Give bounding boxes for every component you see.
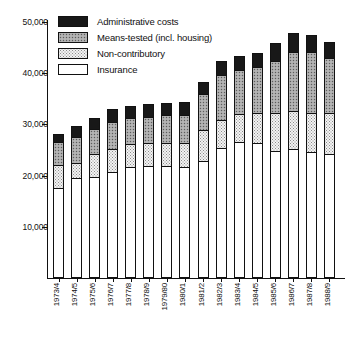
- bar-segment-means-tested-incl-housing: [324, 58, 335, 114]
- bar-segment-administrative-costs: [324, 42, 335, 59]
- bar-segment-means-tested-incl-housing: [252, 67, 263, 114]
- legend-label: Insurance: [97, 65, 137, 75]
- bar-1988-9: [324, 43, 335, 278]
- bar-segment-non-contributory: [89, 154, 100, 178]
- bar-segment-non-contributory: [288, 111, 299, 150]
- bar-segment-means-tested-incl-housing: [270, 61, 281, 113]
- bar-1985-6: [270, 44, 281, 278]
- bar-1987-8: [306, 36, 317, 278]
- bar-segment-means-tested-incl-housing: [179, 115, 190, 144]
- bar-segment-non-contributory: [270, 113, 281, 152]
- x-tick-mark: [167, 278, 168, 282]
- bar-1983-4: [234, 57, 245, 278]
- insurance-swatch: [58, 64, 88, 75]
- x-tick-mark: [293, 278, 294, 282]
- x-tick-label: 1977/8: [125, 283, 136, 306]
- bar-segment-means-tested-incl-housing: [234, 70, 245, 115]
- x-tick-mark: [131, 278, 132, 282]
- bar-segment-administrative-costs: [288, 33, 299, 52]
- bar-segment-non-contributory: [53, 165, 64, 189]
- bar-1974-5: [71, 127, 82, 278]
- bar-segment-insurance: [179, 167, 190, 278]
- chart-legend: Administrative costsMeans-tested (incl. …: [58, 14, 212, 78]
- bar-1977-8: [125, 107, 136, 278]
- bar-segment-insurance: [71, 178, 82, 278]
- bar-segment-means-tested-incl-housing: [125, 118, 136, 145]
- legend-item: Administrative costs: [58, 14, 212, 29]
- bar-segment-non-contributory: [198, 130, 209, 162]
- stacked-bar-chart: 10,00020,00030,00040,00050,000 Administr…: [0, 0, 359, 341]
- bar-1979-80: [161, 104, 172, 278]
- x-tick-label: 1981/2: [198, 283, 209, 306]
- x-tick-label: 1973/4: [53, 283, 64, 306]
- bar-segment-insurance: [198, 161, 209, 278]
- bar-1984-5: [252, 54, 263, 278]
- y-tick-mark: [42, 22, 48, 23]
- bar-segment-administrative-costs: [234, 56, 245, 70]
- bar-1978-9: [143, 105, 154, 278]
- bar-1980-1: [179, 103, 190, 278]
- legend-label: Non-contributory: [97, 49, 165, 59]
- x-tick-mark: [149, 278, 150, 282]
- bar-segment-means-tested-incl-housing: [143, 117, 154, 145]
- y-tick-mark: [42, 176, 48, 177]
- bar-segment-means-tested-incl-housing: [198, 94, 209, 131]
- x-tick-label: 1985/6: [270, 283, 281, 306]
- x-tick-label: 1987/8: [306, 283, 317, 306]
- x-tick-mark: [203, 278, 204, 282]
- x-tick-mark: [95, 278, 96, 282]
- y-tick-mark: [42, 73, 48, 74]
- bar-segment-non-contributory: [107, 149, 118, 173]
- bar-segment-administrative-costs: [252, 53, 263, 67]
- bar-segment-administrative-costs: [179, 102, 190, 115]
- bar-segment-means-tested-incl-housing: [288, 52, 299, 112]
- x-tick-label: 1983/4: [234, 283, 245, 306]
- bar-segment-insurance: [89, 177, 100, 278]
- bar-1982-3: [216, 62, 227, 278]
- bar-segment-means-tested-incl-housing: [306, 52, 317, 114]
- x-tick-mark: [329, 278, 330, 282]
- bar-segment-insurance: [306, 152, 317, 278]
- bar-segment-insurance: [288, 149, 299, 278]
- bar-segment-administrative-costs: [161, 103, 172, 116]
- bar-segment-non-contributory: [324, 113, 335, 154]
- x-tick-label: 1975/6: [89, 283, 100, 306]
- x-tick-mark: [59, 278, 60, 282]
- x-tick-label: 1974/5: [71, 283, 82, 306]
- bar-segment-insurance: [53, 188, 64, 278]
- bar-segment-means-tested-incl-housing: [53, 142, 64, 166]
- bar-segment-non-contributory: [216, 120, 227, 149]
- bar-segment-insurance: [324, 154, 335, 278]
- noncontrib-swatch: [58, 48, 88, 59]
- bar-segment-insurance: [234, 142, 245, 278]
- bar-segment-insurance: [107, 172, 118, 278]
- x-tick-mark: [275, 278, 276, 282]
- bar-segment-insurance: [252, 143, 263, 278]
- bar-segment-means-tested-incl-housing: [71, 137, 82, 164]
- bar-segment-insurance: [161, 166, 172, 278]
- bar-1986-7: [288, 34, 299, 278]
- x-tick-label: 1979/80: [161, 283, 172, 311]
- bar-segment-administrative-costs: [143, 104, 154, 117]
- bar-segment-non-contributory: [252, 113, 263, 144]
- x-tick-label: 1976/7: [107, 283, 118, 306]
- bar-segment-insurance: [143, 166, 154, 278]
- bar-segment-administrative-costs: [270, 43, 281, 62]
- x-tick-mark: [311, 278, 312, 282]
- bar-segment-non-contributory: [71, 163, 82, 179]
- x-tick-label: 1984/5: [252, 283, 263, 306]
- x-tick-mark: [257, 278, 258, 282]
- admin-swatch: [58, 16, 88, 27]
- bar-segment-non-contributory: [306, 113, 317, 153]
- bar-segment-non-contributory: [143, 143, 154, 167]
- x-tick-mark: [221, 278, 222, 282]
- bar-segment-means-tested-incl-housing: [107, 122, 118, 150]
- y-tick-mark: [42, 227, 48, 228]
- y-axis: 10,00020,00030,00040,00050,000: [0, 0, 48, 341]
- bar-segment-non-contributory: [125, 144, 136, 168]
- bar-segment-non-contributory: [234, 114, 245, 144]
- bar-1975-6: [89, 119, 100, 278]
- bar-segment-insurance: [125, 167, 136, 278]
- x-tick-label: 1982/3: [216, 283, 227, 306]
- x-axis-line: [47, 278, 345, 279]
